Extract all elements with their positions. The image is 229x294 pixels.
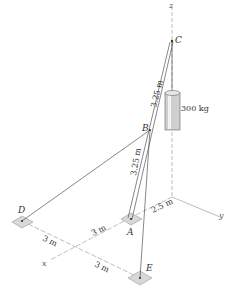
point-c-dot <box>171 40 173 42</box>
label-d: D <box>17 205 25 215</box>
label-b: B <box>141 123 149 133</box>
label-e: E <box>145 263 153 273</box>
label-x-axis: x <box>42 259 47 268</box>
dim-cb: 3.25 m <box>149 79 165 109</box>
x-axis <box>50 218 130 260</box>
dim-x-e: 3 m <box>93 260 111 275</box>
point-a-dot <box>130 218 132 220</box>
d-to-e-line <box>22 221 140 278</box>
label-z-axis: z <box>168 1 174 10</box>
label-c: C <box>175 35 182 45</box>
label-a: A <box>126 227 134 237</box>
dim-d-x: 3 m <box>41 234 59 249</box>
point-d-dot <box>21 220 23 222</box>
mast-diagram: C B D A E z y x 300 kg 3.25 m 3.25 m 2.5… <box>0 0 229 294</box>
pad-d <box>12 216 33 228</box>
label-y-axis: y <box>218 211 224 220</box>
y-axis <box>172 197 220 217</box>
dim-ba: 3.25 m <box>129 147 143 176</box>
point-e-dot <box>139 277 141 279</box>
mast-right-edge <box>132 42 173 219</box>
mass-label: 300 kg <box>181 104 209 113</box>
dim-a-x: 3 m <box>90 223 108 238</box>
point-b-dot <box>149 129 151 131</box>
dim-origin-a: 2.5 m <box>150 197 175 215</box>
cylinder-300kg <box>165 91 180 131</box>
